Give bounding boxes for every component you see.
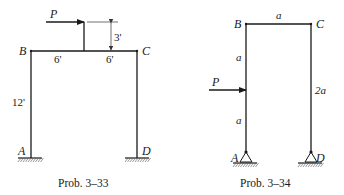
joint-label-d: D bbox=[141, 144, 151, 158]
diagram-canvas: P 3' 6' 6' 12' B C A D Prob. 3–33 bbox=[0, 0, 344, 195]
figure-prob-3-34: P a a a 2a B C A D Prob. 3–34 bbox=[209, 9, 327, 189]
ground-hatch-line bbox=[38, 158, 41, 162]
figure-prob-3-33: P 3' 6' 6' 12' B C A D Prob. 3–33 bbox=[12, 7, 151, 189]
ground-hatch-line bbox=[253, 163, 256, 167]
ground-hatch-line bbox=[256, 163, 259, 167]
ground-hatch-line bbox=[133, 158, 136, 162]
fixed-support-d bbox=[125, 158, 151, 162]
ground-hatch-line bbox=[140, 158, 143, 162]
ground-hatch-line bbox=[138, 158, 141, 162]
caption-prob-3-34: Prob. 3–34 bbox=[240, 177, 291, 189]
dim-post-height-label: 3' bbox=[114, 31, 122, 43]
ground-hatch-line bbox=[248, 163, 251, 167]
ground-hatch-line bbox=[148, 158, 151, 162]
joint-c-dot bbox=[136, 50, 138, 52]
ground-hatch-line bbox=[308, 163, 311, 167]
dim-column-height-label: 12' bbox=[12, 96, 25, 108]
ground-hatch-line bbox=[41, 158, 44, 162]
ground-hatch-line bbox=[243, 163, 246, 167]
ground-hatch-line bbox=[251, 163, 254, 167]
dim-right-height-label: 2a bbox=[315, 84, 327, 96]
load-label: P bbox=[211, 75, 220, 89]
joint-label-c: C bbox=[142, 44, 151, 58]
ground-hatch-line bbox=[128, 158, 131, 162]
ground-hatch-line bbox=[311, 163, 314, 167]
joint-b-dot bbox=[245, 23, 247, 25]
dim-left-upper-label: a bbox=[236, 51, 242, 63]
ground-hatch-line bbox=[135, 158, 138, 162]
ground-hatch-line bbox=[145, 158, 148, 162]
fixed-support-a bbox=[18, 158, 44, 162]
ground-hatch-line bbox=[306, 163, 309, 167]
dim-beam-span-label: a bbox=[276, 9, 282, 21]
caption-prob-3-33: Prob. 3–33 bbox=[58, 177, 109, 189]
ground-hatch-line bbox=[23, 158, 26, 162]
ground-hatch-line bbox=[313, 163, 316, 167]
dim-beam-left-label: 6' bbox=[54, 53, 62, 65]
ground-hatch-line bbox=[246, 163, 249, 167]
joint-label-a: A bbox=[17, 144, 26, 158]
ground-hatch-line bbox=[241, 163, 244, 167]
ground-hatch-line bbox=[28, 158, 31, 162]
ground-hatch-line bbox=[18, 158, 21, 162]
ground-hatch-line bbox=[303, 163, 306, 167]
ground-hatch-line bbox=[130, 158, 133, 162]
joint-c-dot bbox=[310, 23, 312, 25]
ground-hatch-line bbox=[125, 158, 128, 162]
joint-b-dot bbox=[30, 50, 32, 52]
ground-hatch-line bbox=[31, 158, 34, 162]
dim-left-lower-label: a bbox=[236, 114, 242, 126]
ground-hatch-line bbox=[301, 163, 304, 167]
ground-hatch-line bbox=[143, 158, 146, 162]
ground-hatch-line bbox=[238, 163, 241, 167]
ground-hatch-line bbox=[21, 158, 24, 162]
ground-hatch-line bbox=[298, 163, 301, 167]
ground-hatch-line bbox=[26, 158, 29, 162]
joint-label-b: B bbox=[234, 17, 242, 31]
joint-label-b: B bbox=[19, 44, 27, 58]
ground-hatch-line bbox=[36, 158, 39, 162]
load-label: P bbox=[49, 7, 58, 21]
dim-beam-right-label: 6' bbox=[106, 53, 114, 65]
joint-label-c: C bbox=[316, 17, 325, 31]
ground-hatch-line bbox=[33, 158, 36, 162]
